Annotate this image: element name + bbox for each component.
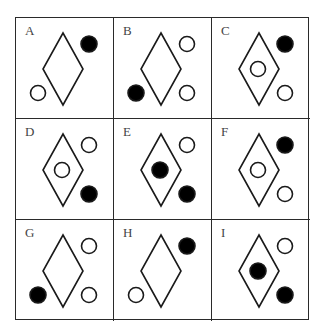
- cell-d: D: [16, 119, 114, 220]
- filled-circle-bottom-left: [128, 85, 144, 101]
- open-circle-bottom-right: [180, 86, 195, 101]
- cell-i: I: [212, 220, 310, 321]
- open-circle-top-right: [180, 37, 195, 52]
- figure: [16, 119, 114, 220]
- figure: [114, 18, 212, 119]
- filled-circle-bottom-right: [277, 287, 293, 303]
- open-circle-bottom-left: [129, 288, 144, 303]
- cell-f: F: [212, 119, 310, 220]
- open-circle-bottom-right: [278, 187, 293, 202]
- cell-b: B: [114, 18, 212, 119]
- open-circle-inner: [251, 62, 266, 77]
- figure: [212, 220, 310, 321]
- diamond-shape: [43, 235, 83, 307]
- puzzle-grid: ABCDEFGHI: [15, 17, 309, 320]
- open-circle-top-right: [82, 138, 97, 153]
- cell-h: H: [114, 220, 212, 321]
- diamond-shape: [141, 235, 181, 307]
- figure: [114, 220, 212, 321]
- figure: [212, 18, 310, 119]
- cell-a: A: [16, 18, 114, 119]
- open-circle-inner: [55, 163, 70, 178]
- figure: [16, 220, 114, 321]
- open-circle-top-right: [82, 239, 97, 254]
- filled-circle-top-right: [81, 36, 97, 52]
- figure: [16, 18, 114, 119]
- filled-circle-inner: [152, 162, 168, 178]
- open-circle-bottom-left: [31, 86, 46, 101]
- cell-c: C: [212, 18, 310, 119]
- figure: [114, 119, 212, 220]
- diamond-shape: [141, 33, 181, 105]
- open-circle-top-right: [180, 138, 195, 153]
- figure: [212, 119, 310, 220]
- filled-circle-top-right: [277, 137, 293, 153]
- filled-circle-top-right: [179, 238, 195, 254]
- cell-g: G: [16, 220, 114, 321]
- cell-e: E: [114, 119, 212, 220]
- open-circle-inner: [251, 163, 266, 178]
- open-circle-bottom-right: [82, 288, 97, 303]
- filled-circle-inner: [250, 263, 266, 279]
- filled-circle-top-right: [277, 36, 293, 52]
- filled-circle-bottom-left: [30, 287, 46, 303]
- open-circle-bottom-right: [278, 86, 293, 101]
- open-circle-top-right: [278, 239, 293, 254]
- filled-circle-bottom-right: [81, 186, 97, 202]
- filled-circle-bottom-right: [179, 186, 195, 202]
- diamond-shape: [43, 33, 83, 105]
